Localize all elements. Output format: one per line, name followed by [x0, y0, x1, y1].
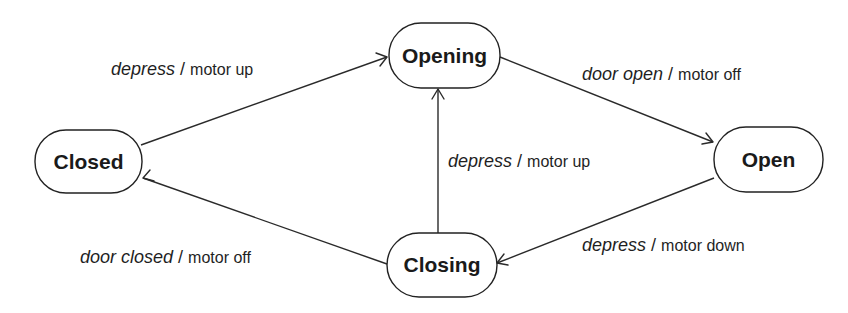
state-diagram: Closed Opening Open Closing depress / mo…: [0, 0, 848, 313]
transition-label-opening-to-open: door open / motor off: [582, 64, 741, 84]
transition-label-closed-to-opening: depress / motor up: [111, 59, 253, 79]
transition-closing-to-opening: [432, 89, 444, 233]
state-label: Closed: [53, 150, 123, 173]
event-text: depress: [111, 59, 175, 79]
state-opening[interactable]: Opening: [389, 23, 500, 88]
state-open[interactable]: Open: [714, 127, 823, 192]
state-label: Opening: [402, 44, 487, 67]
separator-text: /: [512, 151, 527, 171]
state-diagram-canvas: Closed Opening Open Closing depress / mo…: [0, 0, 848, 313]
transition-label-open-to-closing: depress / motor down: [582, 235, 745, 255]
separator-text: /: [173, 247, 188, 267]
state-label: Open: [742, 148, 796, 171]
transition-label-closing-to-closed: door closed / motor off: [80, 247, 251, 267]
action-text: motor down: [661, 237, 745, 254]
action-text: motor off: [678, 66, 741, 83]
state-closed[interactable]: Closed: [35, 130, 142, 193]
event-text: door closed: [80, 247, 174, 267]
action-text: motor off: [188, 249, 251, 266]
event-text: depress: [582, 235, 646, 255]
transition-label-closing-to-opening: depress / motor up: [448, 151, 590, 171]
arrowhead-icon: [143, 170, 154, 181]
event-text: door open: [582, 64, 663, 84]
event-text: depress: [448, 151, 512, 171]
state-label: Closing: [404, 253, 481, 276]
state-closing[interactable]: Closing: [387, 233, 497, 297]
separator-text: /: [175, 59, 190, 79]
action-text: motor up: [190, 61, 253, 78]
action-text: motor up: [527, 153, 590, 170]
separator-text: /: [663, 64, 678, 84]
separator-text: /: [646, 235, 661, 255]
